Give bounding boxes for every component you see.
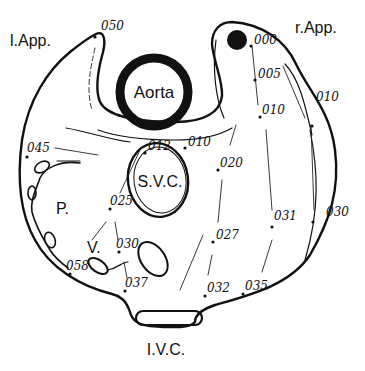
svg-text:037: 037	[125, 276, 148, 290]
timing-032: 032	[203, 281, 230, 298]
svg-text:030: 030	[326, 205, 349, 219]
timing-030-right: 030	[311, 205, 349, 224]
vessel-ellipse-small	[86, 255, 111, 277]
svg-text:058: 058	[66, 259, 89, 273]
timing-000: 000	[249, 33, 277, 48]
pulmonary-vein-1	[33, 159, 52, 176]
svg-text:045: 045	[27, 141, 50, 155]
svg-text:010: 010	[188, 135, 211, 149]
timing-027: 027	[211, 228, 239, 244]
timing-020: 020	[216, 156, 243, 172]
arrow-to-lower	[180, 235, 203, 290]
pulmonary-vein-3	[43, 231, 58, 249]
svg-text:035: 035	[245, 279, 268, 293]
pulmonary-label: P.	[56, 200, 69, 217]
right-inner-wall	[285, 64, 312, 135]
sinus-node-marker	[227, 30, 247, 50]
timing-010-aorta: 010	[183, 135, 211, 150]
svg-text:030: 030	[116, 237, 139, 251]
ivc-label: I.V.C.	[147, 341, 186, 358]
svg-text:010: 010	[262, 103, 285, 117]
timing-005: 005	[253, 67, 281, 82]
svg-text:050: 050	[101, 19, 124, 33]
vessel-label: V.	[87, 239, 101, 256]
svg-text:032: 032	[207, 281, 230, 295]
timing-058: 058	[66, 259, 89, 276]
arrow-031-035	[262, 240, 272, 272]
arrow-010-030	[311, 125, 314, 210]
arrow-to-045	[55, 148, 98, 155]
arrow-027-032	[208, 255, 212, 275]
right-inner-wall-lower	[305, 130, 316, 260]
arrow-025-v	[92, 222, 106, 240]
timing-012: 012	[143, 139, 171, 155]
svc-label: S.V.C.	[138, 173, 183, 190]
svg-text:000: 000	[254, 33, 277, 47]
svg-text:031: 031	[274, 209, 297, 223]
svg-text:005: 005	[258, 67, 281, 81]
timing-050: 050	[93, 19, 124, 39]
ivc-outline	[136, 311, 202, 325]
right-appendage-label: r.App.	[295, 19, 337, 36]
timing-031: 031	[270, 209, 297, 229]
svg-text:027: 027	[216, 228, 239, 242]
diagram-canvas: Aorta S.V.C. P. V. I.V.C. l.App. r.App. …	[0, 0, 365, 371]
arrow-010-031	[266, 130, 272, 210]
arrow-020-027	[218, 180, 222, 222]
timing-037: 037	[123, 276, 148, 293]
timing-010-right-app: 010	[258, 103, 285, 119]
left-app-inner-line	[89, 48, 95, 110]
left-appendage-label: l.App.	[10, 32, 51, 49]
svg-text:025: 025	[110, 194, 133, 208]
timing-025: 025	[108, 194, 133, 211]
svg-text:012: 012	[148, 139, 171, 153]
svg-text:010: 010	[316, 90, 339, 104]
timing-030-v: 030	[116, 237, 139, 254]
aorta-label: Aorta	[134, 83, 175, 102]
timing-045: 045	[25, 141, 50, 159]
atrium-activation-diagram: Aorta S.V.C. P. V. I.V.C. l.App. r.App. …	[0, 0, 365, 371]
svg-text:020: 020	[220, 156, 243, 170]
